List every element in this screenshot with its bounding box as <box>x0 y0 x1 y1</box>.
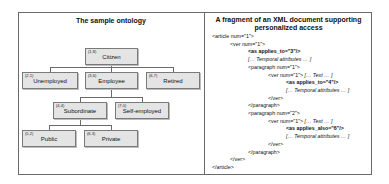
node-label: Employee <box>86 78 137 85</box>
node-label: Unemployed <box>23 78 77 85</box>
xml-line: </ver> <box>212 141 349 149</box>
node-self-employed: (7,0) Self-employed <box>115 102 169 119</box>
xml-line: </paragraph> <box>212 102 349 110</box>
node-subordinate: (4,4) Subordinate <box>53 102 107 119</box>
xml-code-block: <article num="1"> <ver num="1"> <as appl… <box>212 33 349 172</box>
node-label: Citizen <box>86 54 137 61</box>
xml-line: <as applies_to="3"/> <box>212 48 349 56</box>
xml-line: <ver num="1"> <box>212 41 349 49</box>
xml-title: A fragment of an XML document supporting… <box>205 16 372 32</box>
node-label: Self-employed <box>116 108 168 115</box>
node-employee: (3,6) Employee <box>85 72 138 89</box>
node-private: (6,3) Private <box>84 130 138 147</box>
node-label: Retired <box>147 78 199 85</box>
xml-title-line2: personalized access <box>205 24 372 32</box>
xml-line: </article> <box>212 164 349 172</box>
xml-line: <paragraph num="2"> <box>212 110 349 118</box>
xml-line: <ver num="1"> [… Text … ] <box>212 118 349 126</box>
xml-line: [… Temporal attributes … ] <box>212 56 349 64</box>
xml-line: </ver> <box>212 95 349 103</box>
xml-line: <as applies_to="4"/> <box>212 79 349 87</box>
connector <box>80 97 142 98</box>
node-label: Public <box>23 136 75 143</box>
node-public: (5,2) Public <box>22 130 76 147</box>
panel-divider <box>204 12 205 175</box>
connector <box>49 125 111 126</box>
node-label: Private <box>85 136 137 143</box>
xml-line: [… Temporal attributes … ] <box>212 133 349 141</box>
xml-line: <paragraph num="1"> <box>212 64 349 72</box>
xml-line: <as applies_also="6"/> <box>212 125 349 133</box>
node-citizen: (1,8) Citizen <box>85 48 138 65</box>
xml-line: </paragraph> <box>212 149 349 157</box>
node-label: Subordinate <box>54 108 106 115</box>
node-retired: (6,7) Retired <box>146 72 200 89</box>
ontology-title: The sample ontology <box>18 17 204 25</box>
xml-line: <ver num="1"> [… Text … ] <box>212 72 349 80</box>
xml-line: </ver> <box>212 156 349 164</box>
xml-line: [… Temporal attributes … ] <box>212 87 349 95</box>
xml-line: <article num="1"> <box>212 33 349 41</box>
xml-title-line1: A fragment of an XML document supporting <box>205 16 372 24</box>
node-unemployed: (2,1) Unemployed <box>22 72 78 89</box>
